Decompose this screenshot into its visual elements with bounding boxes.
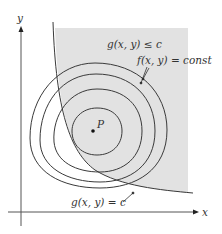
- y-axis: [19, 26, 24, 226]
- y-axis-arrow-icon: [19, 26, 24, 32]
- feasible-region: [55, 28, 188, 193]
- x-axis-arrow-icon: [193, 210, 199, 215]
- point-p-marker: [91, 129, 95, 133]
- constraint-curve-label: g(x, y) = c: [71, 196, 126, 208]
- point-p-label: P: [96, 118, 105, 130]
- constrained-optimization-diagram: P y x g(x, y) ≤ c f(x, y) = const g(x, y…: [0, 0, 222, 234]
- level-curves-label: f(x, y) = const: [136, 54, 212, 66]
- y-axis-label: y: [16, 12, 24, 24]
- region-label: g(x, y) ≤ c: [107, 38, 162, 50]
- x-axis: [8, 210, 199, 215]
- x-axis-label: x: [202, 206, 208, 218]
